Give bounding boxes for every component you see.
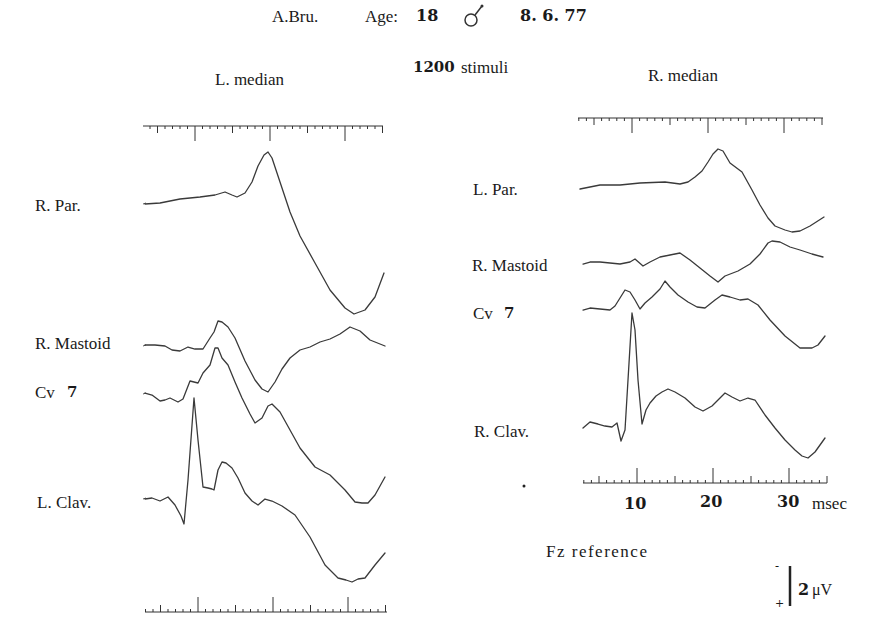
trace-right-r-mastoid <box>583 241 823 282</box>
left-bottom-time-ruler <box>145 597 387 612</box>
trace-right-cv-7 <box>583 281 825 348</box>
speck <box>523 485 526 488</box>
left-top-time-ruler <box>143 126 383 141</box>
right-top-time-ruler <box>578 118 823 133</box>
traces-canvas <box>0 0 883 633</box>
trace-left-l-clav <box>145 398 385 582</box>
trace-left-cv-7 <box>145 348 385 503</box>
trace-left-r-mastoid <box>145 321 385 392</box>
trace-right-l-par <box>580 149 824 232</box>
trace-left-r-par <box>145 152 384 314</box>
trace-right-r-clav <box>583 313 825 458</box>
sep-figure: A.Bru. Age: 18 8. 6. 77 L. median 1200 s… <box>0 0 883 633</box>
right-bottom-time-ruler <box>583 468 827 483</box>
